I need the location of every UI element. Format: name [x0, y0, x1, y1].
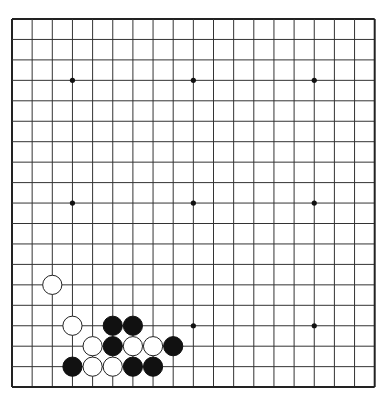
black-stone: [103, 337, 122, 356]
white-stone: [43, 275, 62, 294]
star-point: [312, 323, 317, 328]
black-stone: [164, 337, 183, 356]
white-stone: [83, 337, 102, 356]
star-point: [191, 200, 196, 205]
star-point: [191, 78, 196, 83]
star-point: [70, 78, 75, 83]
white-stone: [83, 357, 102, 376]
black-stone: [123, 316, 142, 335]
black-stone: [143, 357, 162, 376]
go-board[interactable]: [0, 0, 388, 403]
star-point: [312, 200, 317, 205]
white-stone: [103, 357, 122, 376]
white-stone: [123, 337, 142, 356]
star-point: [191, 323, 196, 328]
black-stone: [63, 357, 82, 376]
white-stone: [143, 337, 162, 356]
black-stone: [103, 316, 122, 335]
black-stone: [123, 357, 142, 376]
star-point: [312, 78, 317, 83]
white-stone: [63, 316, 82, 335]
star-point: [70, 200, 75, 205]
